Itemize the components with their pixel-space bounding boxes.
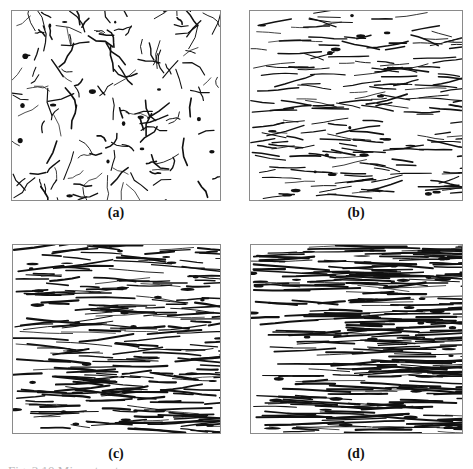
dark-phase-particle [181, 288, 195, 291]
panel-label-c: (c) [86, 446, 146, 462]
dark-phase-particle [405, 145, 415, 147]
grain-boundary [418, 135, 444, 139]
grain-boundary [143, 353, 200, 356]
grain-boundary [134, 357, 157, 358]
grain-boundary [350, 275, 399, 276]
grain-boundary [320, 186, 352, 192]
grain-boundary [289, 251, 363, 253]
grain-boundary [372, 175, 403, 182]
grain-boundary [14, 245, 55, 250]
dark-phase-particle [50, 104, 56, 107]
grain-boundary [460, 166, 462, 169]
dark-phase-particle [383, 286, 399, 289]
grain-boundary [123, 371, 152, 375]
grain-boundary [41, 187, 49, 200]
dark-phase-particle [426, 321, 437, 323]
dark-phase-particle [18, 138, 23, 143]
grain-boundary [458, 153, 462, 156]
grain-boundary [41, 428, 70, 429]
grain-boundary [12, 88, 22, 95]
grain-boundary [100, 83, 113, 95]
grain-boundary [90, 153, 102, 155]
grain-boundary [205, 340, 220, 342]
grain-boundary [117, 258, 165, 260]
grain-boundary [340, 143, 357, 146]
dark-phase-particle [117, 250, 123, 253]
grain-boundary [126, 184, 140, 200]
grain-boundary [68, 171, 83, 179]
grain-boundary [215, 372, 220, 373]
grain-boundary [111, 168, 128, 185]
dark-phase-particle [140, 148, 145, 151]
dark-phase-particle [448, 355, 453, 357]
grain-boundary [397, 165, 416, 166]
grain-boundary [456, 385, 462, 387]
grain-boundary [451, 190, 462, 193]
grain-boundary [378, 344, 407, 345]
dark-phase-particle [282, 193, 292, 196]
grain-boundary [153, 170, 169, 171]
grain-boundary [184, 389, 220, 390]
grain-boundary [404, 112, 439, 113]
dark-phase-particle [362, 179, 366, 181]
grain-boundary [423, 39, 447, 40]
grain-boundary [82, 18, 89, 27]
grain-boundary [393, 257, 428, 258]
dark-phase-particle [34, 289, 44, 292]
grain-boundary [56, 26, 81, 33]
grain-boundary [78, 155, 91, 158]
dark-phase-particle [61, 410, 67, 413]
grain-boundary [113, 410, 134, 412]
grain-boundary [95, 377, 118, 379]
dark-phase-particle [425, 192, 432, 196]
grain-boundary [43, 26, 46, 51]
grain-boundary [109, 11, 127, 16]
grain-boundary [38, 348, 70, 349]
dark-phase-particle [353, 255, 370, 257]
grain-boundary [64, 257, 91, 260]
grain-boundary [57, 198, 61, 200]
grain-boundary [328, 124, 346, 126]
grain-boundary [392, 159, 413, 162]
grain-boundary [13, 338, 68, 340]
grain-boundary [153, 316, 204, 318]
grain-boundary [458, 327, 462, 330]
grain-boundary [409, 279, 459, 282]
grain-boundary [156, 408, 212, 410]
grain-boundary [375, 84, 408, 85]
grain-boundary [251, 49, 266, 50]
grain-boundary [451, 302, 462, 303]
grain-boundary [141, 127, 167, 131]
grain-boundary [216, 259, 220, 260]
grain-boundary [355, 61, 370, 63]
grain-boundary [309, 37, 347, 39]
micrograph-b [250, 11, 462, 200]
grain-boundary [54, 115, 61, 136]
grain-boundary [180, 260, 203, 263]
grain-boundary [309, 314, 360, 315]
dark-phase-particle [157, 88, 161, 91]
micrograph-a [12, 11, 220, 200]
micrograph-panel-a [11, 10, 221, 201]
grain-boundary [13, 95, 28, 100]
grain-boundary [372, 283, 447, 284]
grain-boundary [125, 331, 158, 332]
grain-boundary [97, 136, 106, 141]
grain-boundary [183, 63, 205, 75]
grain-boundary [419, 98, 461, 101]
dark-phase-particle [329, 397, 342, 401]
grain-boundary [146, 100, 156, 120]
grain-boundary [340, 100, 372, 103]
dark-phase-particle [271, 399, 283, 403]
grain-boundary [106, 43, 125, 65]
grain-boundary [459, 262, 462, 263]
grain-boundary [110, 47, 113, 71]
grain-boundary [75, 316, 112, 322]
grain-boundary [71, 366, 130, 367]
dark-phase-particle [22, 53, 28, 59]
grain-boundary [435, 132, 450, 134]
grain-boundary [107, 176, 108, 200]
grain-boundary [354, 71, 390, 76]
grain-boundary [197, 369, 218, 370]
grain-boundary [103, 408, 130, 409]
